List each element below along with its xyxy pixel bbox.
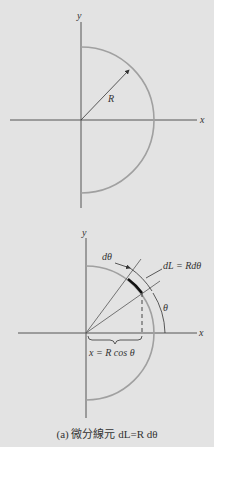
- theta-arc: [153, 293, 165, 333]
- figure-caption: (a) 微分線元 dL=R dθ: [0, 425, 214, 441]
- x-brace: [88, 336, 142, 344]
- top-diagram: y x R: [10, 10, 205, 208]
- dL-label: dL = Rdθ: [163, 260, 201, 271]
- dtheta-label: dθ: [102, 251, 112, 262]
- y-axis-label: y: [81, 227, 87, 238]
- dtheta-arrow: [115, 263, 130, 268]
- x-axis-label: x: [199, 114, 205, 125]
- x-expression-label: x = R cos θ: [88, 347, 135, 358]
- x-axis-label: x: [198, 327, 204, 338]
- dtheta-arc: [130, 268, 152, 291]
- semicircle-figure: y x R y x dθ dL = Rdθ θ x = R cos θ: [0, 0, 229, 480]
- differential-element: [128, 279, 142, 293]
- radius-arrow: [81, 70, 129, 120]
- dL-leader: [146, 269, 162, 278]
- y-axis-label: y: [76, 10, 82, 21]
- radius-label: R: [107, 93, 114, 104]
- bottom-diagram: y x dθ dL = Rdθ θ x = R cos θ: [18, 227, 204, 418]
- theta-label: θ: [163, 302, 168, 313]
